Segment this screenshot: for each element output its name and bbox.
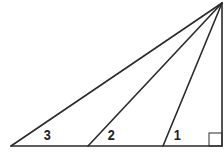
right-angle-marker-icon (209, 133, 222, 146)
angle-label-3: 3 (44, 127, 51, 142)
angle-label-2: 2 (108, 127, 115, 142)
angle-label-1: 1 (174, 127, 181, 142)
cevian-line-1 (163, 3, 222, 146)
hypotenuse-line (11, 3, 222, 146)
cevian-line-2 (88, 3, 222, 146)
